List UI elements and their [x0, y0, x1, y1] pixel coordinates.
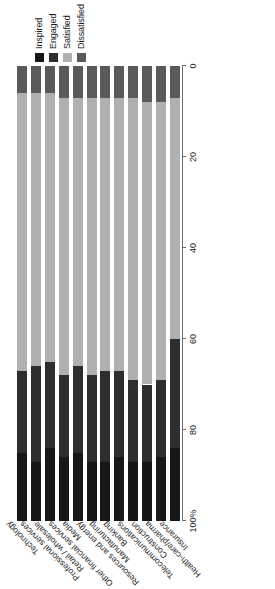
- axis-tick-mark: [182, 338, 186, 339]
- legend-swatch-icon: [77, 53, 86, 62]
- bar-segment: [87, 462, 97, 521]
- bar-segment: [170, 339, 180, 448]
- legend-label: Dissatisfied: [77, 4, 86, 49]
- bar-segment: [128, 462, 138, 521]
- legend-item: Engaged: [47, 2, 59, 62]
- bar-segment: [128, 98, 138, 380]
- category-labels: TechnologyProfessional servicesRetail / …: [0, 523, 167, 581]
- bar-segment: [59, 98, 69, 376]
- legend-swatch-icon: [63, 53, 72, 62]
- bar-segment: [114, 66, 124, 98]
- bar-segment: [87, 98, 97, 376]
- axis-tick-label: 60: [188, 334, 198, 344]
- bar-segment: [100, 371, 110, 462]
- legend-item: Dissatisfied: [75, 2, 87, 62]
- bar-segment: [100, 66, 110, 98]
- bar-segment: [142, 385, 152, 462]
- bar-segment: [100, 462, 110, 521]
- axis-tick-label: 20: [188, 152, 198, 162]
- bar-segment: [142, 66, 152, 102]
- bar-row: [100, 66, 110, 521]
- bar-segment: [114, 371, 124, 457]
- bar-segment: [17, 453, 27, 521]
- bar-segment: [156, 102, 166, 380]
- bar-segment: [170, 448, 180, 521]
- bar-segment: [87, 66, 97, 98]
- legend-swatch-icon: [49, 53, 58, 62]
- bar-segment: [73, 66, 83, 98]
- axis-tick-mark: [182, 156, 186, 157]
- bar-segment: [31, 462, 41, 521]
- plot-area: [15, 66, 182, 521]
- legend-swatch-icon: [35, 53, 44, 62]
- bar-segment: [114, 98, 124, 371]
- bar-segment: [59, 375, 69, 457]
- bar-segment: [73, 366, 83, 452]
- bar-row: [142, 66, 152, 521]
- axis-tick-mark: [182, 65, 186, 66]
- bar-segment: [45, 362, 55, 448]
- bar-row: [45, 66, 55, 521]
- bar-segment: [128, 380, 138, 462]
- bar-segment: [73, 453, 83, 521]
- legend-label: Inspired: [35, 18, 44, 49]
- bar-segment: [87, 375, 97, 461]
- bar-row: [87, 66, 97, 521]
- chart-legend: InspiredEngagedSatisfiedDissatisfied: [33, 2, 87, 62]
- bar-segment: [31, 93, 41, 366]
- axis-tick-mark: [182, 429, 186, 430]
- value-axis-line: [182, 66, 183, 521]
- bar-segment: [31, 366, 41, 462]
- axis-tick-mark: [182, 247, 186, 248]
- axis-tick-label: 100%: [188, 509, 198, 532]
- bar-segment: [17, 66, 27, 93]
- bar-segment: [45, 448, 55, 521]
- bar-row: [128, 66, 138, 521]
- bar-segment: [17, 93, 27, 371]
- bar-segment: [59, 66, 69, 98]
- bar-row: [114, 66, 124, 521]
- bar-row: [31, 66, 41, 521]
- bar-segment: [17, 371, 27, 453]
- legend-item: Inspired: [33, 2, 45, 62]
- axis-tick-label: 0: [188, 63, 198, 68]
- axis-tick-label: 80: [188, 425, 198, 435]
- bar-row: [59, 66, 69, 521]
- axis-tick-mark: [182, 520, 186, 521]
- bar-row: [17, 66, 27, 521]
- axis-tick-label: 40: [188, 243, 198, 253]
- bar-segment: [142, 462, 152, 521]
- bar-segment: [100, 98, 110, 371]
- bar-row: [73, 66, 83, 521]
- legend-label: Satisfied: [63, 15, 72, 49]
- bar-segment: [156, 457, 166, 521]
- legend-label: Engaged: [49, 14, 58, 49]
- legend-item: Satisfied: [61, 2, 73, 62]
- bar-segment: [73, 98, 83, 366]
- bar-row: [170, 66, 180, 521]
- bar-segment: [170, 98, 180, 339]
- bar-segment: [45, 66, 55, 93]
- bar-segment: [142, 102, 152, 384]
- bar-segment: [45, 93, 55, 361]
- bar-segment: [128, 66, 138, 98]
- bar-segment: [31, 66, 41, 93]
- bar-segment: [156, 380, 166, 457]
- bar-segment: [170, 66, 180, 98]
- bar-segment: [156, 66, 166, 102]
- bar-row: [156, 66, 166, 521]
- bar-segment: [114, 457, 124, 521]
- bar-segment: [59, 457, 69, 521]
